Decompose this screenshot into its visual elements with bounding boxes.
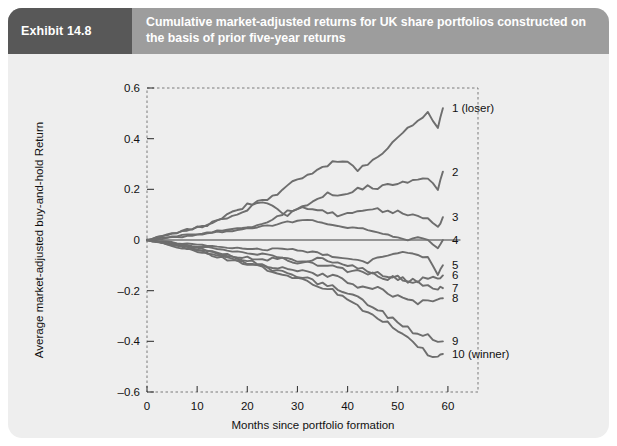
y-tick-label-0: 0.6: [124, 82, 140, 94]
x-tick-label-1: 10: [191, 400, 204, 412]
exhibit-number-tag: Exhibit 14.8: [8, 8, 132, 54]
series-line-9: [147, 240, 443, 341]
series-label-6: 6: [452, 269, 458, 281]
line-chart: 0.60.40.20–0.2–0.4–0.6 0102030405060 1 (…: [8, 54, 609, 438]
series-line-7: [147, 240, 443, 290]
series-label-1: 1 (loser): [452, 102, 494, 114]
data-series-group: [147, 108, 443, 357]
x-tick-label-5: 50: [391, 400, 404, 412]
y-axis-tick-labels: 0.60.40.20–0.2–0.4–0.6: [118, 82, 141, 398]
series-label-2: 2: [452, 166, 458, 178]
x-tick-label-2: 20: [241, 400, 254, 412]
x-tick-label-3: 30: [291, 400, 304, 412]
y-axis-title: Average market-adjusted buy-and-hold Ret…: [33, 122, 45, 358]
x-axis-ticks: [147, 386, 448, 392]
series-line-10: [147, 240, 443, 357]
series-label-9: 9: [452, 335, 458, 347]
series-label-8: 8: [452, 292, 458, 304]
y-tick-label-5: –0.4: [118, 335, 141, 347]
series-line-3: [147, 207, 443, 240]
x-tick-label-4: 40: [341, 400, 354, 412]
chart-area: 0.60.40.20–0.2–0.4–0.6 0102030405060 1 (…: [8, 54, 609, 438]
x-axis-title: Months since portfolio formation: [232, 419, 395, 431]
y-tick-label-2: 0.2: [124, 183, 140, 195]
series-label-4: 4: [452, 234, 459, 246]
x-axis-tick-labels: 0102030405060: [144, 400, 455, 412]
y-tick-label-6: –0.6: [118, 386, 140, 398]
x-tick-label-6: 60: [442, 400, 455, 412]
series-end-labels: 1 (loser)2345678910 (winner): [452, 102, 510, 360]
exhibit-header: Exhibit 14.8 Cumulative market-adjusted …: [8, 8, 609, 54]
exhibit-figure: Exhibit 14.8 Cumulative market-adjusted …: [0, 0, 617, 446]
exhibit-title: Cumulative market-adjusted returns for U…: [132, 8, 609, 54]
series-line-2: [147, 172, 443, 241]
x-tick-label-0: 0: [144, 400, 150, 412]
y-tick-label-1: 0.4: [124, 133, 141, 145]
series-label-10: 10 (winner): [452, 348, 510, 360]
series-label-3: 3: [452, 211, 458, 223]
y-tick-label-4: –0.2: [118, 285, 140, 297]
y-tick-label-3: 0: [134, 234, 140, 246]
